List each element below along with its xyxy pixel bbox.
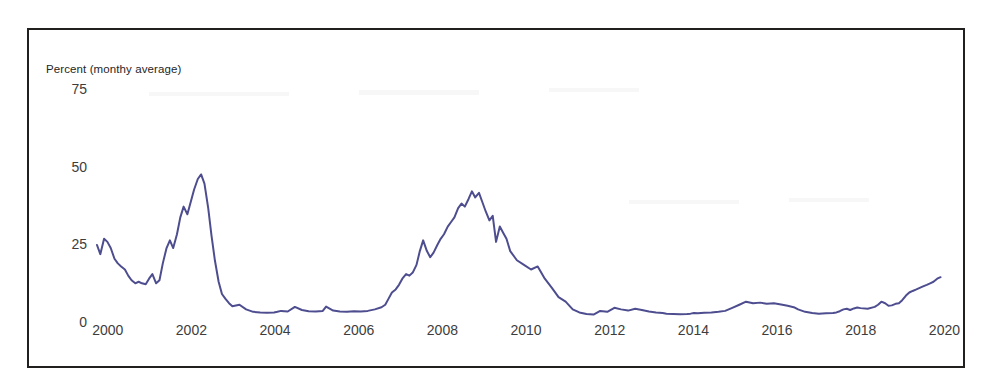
chart-plot-area: Percent (monthy average) 0255075 2000200… bbox=[29, 30, 963, 366]
series-line-percent bbox=[97, 174, 941, 314]
chart-figure-frame: Percent (monthy average) 0255075 2000200… bbox=[27, 28, 965, 368]
chart-series-svg bbox=[29, 30, 963, 366]
